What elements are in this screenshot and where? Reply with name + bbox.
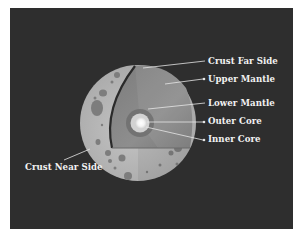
label-outer-core: Outer Core <box>208 116 262 126</box>
inner-core <box>135 117 147 129</box>
label-crust-far-side: Crust Far Side <box>208 56 278 66</box>
label-crust-near-side: Crust Near Side <box>25 162 103 172</box>
label-lower-mantle: Lower Mantle <box>208 98 275 108</box>
label-upper-mantle: Upper Mantle <box>208 74 275 84</box>
moon-cutaway-illustration <box>0 0 293 229</box>
label-inner-core: Inner Core <box>208 134 261 144</box>
core-layers <box>126 109 154 137</box>
